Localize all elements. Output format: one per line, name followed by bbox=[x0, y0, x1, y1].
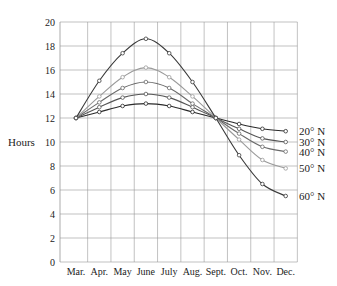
data-point-marker bbox=[167, 104, 171, 108]
data-point-marker bbox=[98, 110, 102, 114]
data-point-marker bbox=[284, 129, 288, 133]
data-point-marker bbox=[261, 158, 265, 162]
data-point-marker bbox=[98, 105, 102, 109]
data-point-marker bbox=[144, 66, 148, 70]
data-point-marker bbox=[214, 116, 218, 120]
data-point-marker bbox=[284, 150, 288, 154]
x-tick-label: July bbox=[161, 266, 178, 277]
x-tick-label: June bbox=[137, 266, 156, 277]
x-tick-label: Sept. bbox=[206, 266, 226, 277]
data-point-marker bbox=[237, 153, 241, 157]
data-point-marker bbox=[98, 79, 102, 83]
data-point-marker bbox=[121, 86, 125, 90]
x-tick-label: Mar. bbox=[67, 266, 86, 277]
data-point-marker bbox=[237, 132, 241, 136]
data-point-marker bbox=[261, 182, 265, 186]
data-point-marker bbox=[261, 137, 265, 141]
data-point-marker bbox=[167, 51, 171, 55]
data-point-marker bbox=[144, 80, 148, 84]
data-point-marker bbox=[191, 105, 195, 109]
data-point-marker bbox=[191, 102, 195, 106]
data-point-marker bbox=[144, 92, 148, 96]
data-point-marker bbox=[237, 138, 241, 142]
chart-grid bbox=[60, 22, 297, 262]
daylight-hours-chart: 02468101214161820 Mar.Apr.MayJuneJulyAug… bbox=[0, 0, 337, 286]
y-tick-label: 10 bbox=[45, 137, 55, 148]
x-tick-label: Apr. bbox=[91, 266, 109, 277]
data-point-marker bbox=[144, 37, 148, 41]
series-label: 50° N bbox=[299, 162, 325, 174]
data-point-marker bbox=[261, 145, 265, 149]
data-point-marker bbox=[284, 140, 288, 144]
data-point-marker bbox=[284, 167, 288, 171]
y-tick-label: 20 bbox=[45, 17, 55, 28]
series-label: 60° N bbox=[299, 190, 325, 202]
data-point-marker bbox=[261, 127, 265, 131]
x-tick-label: Aug. bbox=[183, 266, 203, 277]
data-point-marker bbox=[284, 194, 288, 198]
series-labels: 20° N30° N40° N50° N60° N bbox=[299, 125, 325, 202]
x-tick-label: Dec. bbox=[276, 266, 295, 277]
data-point-marker bbox=[237, 122, 241, 126]
data-point-marker bbox=[144, 102, 148, 106]
data-point-marker bbox=[167, 75, 171, 79]
x-tick-label: May bbox=[113, 266, 131, 277]
y-tick-label: 8 bbox=[50, 161, 55, 172]
y-tick-label: 6 bbox=[50, 185, 55, 196]
y-axis-ticks: 02468101214161820 bbox=[45, 17, 55, 268]
y-tick-label: 16 bbox=[45, 65, 55, 76]
x-tick-label: Nov. bbox=[253, 266, 272, 277]
y-tick-label: 2 bbox=[50, 233, 55, 244]
data-point-marker bbox=[191, 95, 195, 99]
data-point-marker bbox=[237, 127, 241, 131]
y-tick-label: 18 bbox=[45, 41, 55, 52]
data-point-marker bbox=[191, 110, 195, 114]
data-point-marker bbox=[121, 96, 125, 100]
y-tick-label: 0 bbox=[50, 257, 55, 268]
data-point-marker bbox=[98, 101, 102, 105]
data-point-marker bbox=[167, 96, 171, 100]
y-tick-label: 12 bbox=[45, 113, 55, 124]
x-axis-ticks: Mar.Apr.MayJuneJulyAug.Sept.Oct.Nov.Dec. bbox=[67, 266, 295, 277]
data-point-marker bbox=[121, 51, 125, 55]
y-tick-label: 4 bbox=[50, 209, 55, 220]
data-point-marker bbox=[98, 95, 102, 99]
data-point-marker bbox=[167, 86, 171, 90]
data-point-marker bbox=[191, 80, 195, 84]
data-point-marker bbox=[74, 116, 78, 120]
x-tick-label: Oct. bbox=[231, 266, 248, 277]
data-point-marker bbox=[121, 75, 125, 79]
y-axis-label: Hours bbox=[8, 136, 35, 148]
data-point-marker bbox=[121, 104, 125, 108]
series-label: 40° N bbox=[299, 146, 325, 158]
y-tick-label: 14 bbox=[45, 89, 55, 100]
